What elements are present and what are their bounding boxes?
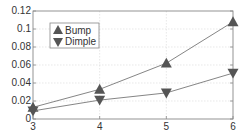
y-tick-label: 0.04 xyxy=(12,77,32,88)
y-tick-label: 0.1 xyxy=(17,23,31,34)
line-chart: 00.020.040.060.080.10.12 3456 Bump Dimpl… xyxy=(0,0,252,140)
legend: Bump Dimple xyxy=(50,23,99,48)
y-tick-label: 0.08 xyxy=(12,41,32,52)
y-axis: 00.020.040.060.080.10.12 xyxy=(12,5,233,124)
series-line-dimple xyxy=(33,73,233,111)
triangle-up-icon xyxy=(94,84,105,94)
x-axis: 3456 xyxy=(30,116,236,132)
triangle-up-icon xyxy=(161,58,172,68)
y-tick-label: 0.12 xyxy=(12,5,32,16)
triangle-up-icon xyxy=(228,16,239,26)
triangle-down-icon xyxy=(228,69,239,79)
x-tick-label: 4 xyxy=(97,121,103,132)
y-tick-label: 0.02 xyxy=(12,95,32,106)
x-tick-label: 5 xyxy=(164,121,170,132)
x-tick-label: 3 xyxy=(30,121,36,132)
legend-label-bump: Bump xyxy=(65,25,92,36)
y-tick-label: 0.06 xyxy=(12,59,32,70)
chart-container: 00.020.040.060.080.10.12 3456 Bump Dimpl… xyxy=(0,0,252,140)
x-tick-label: 6 xyxy=(230,121,236,132)
legend-label-dimple: Dimple xyxy=(65,36,97,47)
